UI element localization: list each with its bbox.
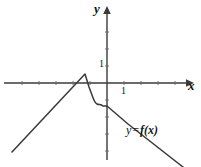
plot-canvas — [0, 0, 201, 167]
y-axis-tick-label-1: 1 — [99, 59, 104, 69]
x-axis-label: x — [188, 79, 195, 92]
function-label-equals: = — [131, 123, 140, 137]
y-axis-label: y — [94, 2, 100, 15]
function-equation-label: y=f(x) — [126, 124, 158, 136]
function-curve — [12, 74, 183, 167]
x-axis-tick-label-1: 1 — [121, 86, 126, 96]
function-graph-figure: y x 1 1 y=f(x) — [0, 0, 201, 167]
function-label-argument: (x) — [144, 123, 158, 137]
y-axis-arrow-icon — [103, 6, 111, 14]
